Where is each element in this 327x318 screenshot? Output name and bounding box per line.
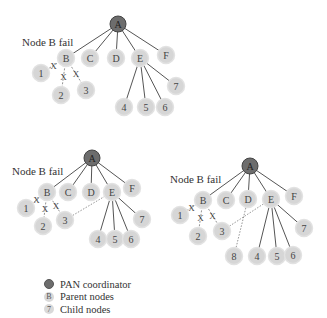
node-label: E: [268, 194, 274, 205]
node-2: 2: [53, 87, 70, 104]
node-label: 4: [255, 251, 260, 262]
node-label: 2: [41, 221, 46, 232]
node-label: B: [63, 53, 70, 64]
link-failure-x-icon: X: [188, 203, 195, 213]
node-label: 8: [232, 251, 237, 262]
node-label: 3: [84, 85, 89, 96]
node-label: C: [87, 53, 94, 64]
node-5: 5: [269, 248, 286, 265]
node-label: 2: [196, 231, 201, 242]
node-label: C: [65, 187, 72, 198]
node-B: B: [39, 184, 56, 201]
node-label: 4: [96, 234, 101, 245]
node-label: B: [44, 187, 51, 198]
node-3: 3: [57, 212, 74, 229]
coordinator-node-A: A: [84, 150, 100, 166]
coordinator-node-A: A: [242, 158, 258, 174]
tree-diagram-3: Node B failXXX12345678ABCDEF: [170, 158, 313, 265]
node-4: 4: [249, 248, 266, 265]
node-C: C: [60, 184, 77, 201]
node-label: 4: [122, 102, 127, 113]
node-label: 3: [63, 215, 68, 226]
node-B: B: [195, 192, 212, 209]
node-E: E: [132, 50, 149, 67]
node-6: 6: [157, 99, 174, 116]
node-label: 6: [163, 102, 168, 113]
node-label: B: [200, 195, 207, 206]
node-label: 6: [291, 250, 296, 261]
node-label: D: [244, 194, 251, 205]
node-label: 2: [59, 90, 64, 101]
legend-label: Child nodes: [60, 304, 110, 315]
node-label: A: [114, 19, 122, 30]
link-failure-x-icon: X: [209, 211, 216, 221]
legend-item-parent-nodes: B Parent nodes: [44, 291, 131, 304]
legend-item-pan-coordinator: PAN coordinator: [44, 278, 131, 291]
node-label: A: [246, 161, 254, 172]
link-failure-x-icon: X: [42, 204, 49, 214]
node-4: 4: [116, 99, 133, 116]
node-label: 6: [129, 234, 134, 245]
node-1: 1: [33, 65, 50, 82]
network-diagram-canvas: Node B failXXX1234567ABCDEFNode B failXX…: [0, 0, 327, 318]
link-failure-x-icon: X: [73, 69, 80, 79]
node-B: B: [58, 50, 75, 67]
node-D: D: [240, 191, 257, 208]
node-7: 7: [296, 220, 313, 237]
node-label: 1: [178, 210, 183, 221]
node-label: A: [88, 153, 96, 164]
link-failure-x-icon: X: [50, 61, 57, 71]
node-D: D: [83, 184, 100, 201]
node-3: 3: [214, 223, 231, 240]
link-failure-x-icon: X: [53, 201, 60, 211]
node-label: F: [129, 183, 135, 194]
coordinator-node-A: A: [110, 16, 126, 32]
node-7: 7: [134, 211, 151, 228]
node-6: 6: [123, 231, 140, 248]
tree-diagram-2: Node B failXXX1234567ABCDEF: [12, 150, 151, 248]
node-7: 7: [168, 78, 185, 95]
node-label: D: [87, 187, 94, 198]
parent-node-icon: B: [44, 292, 54, 302]
node-E: E: [263, 191, 280, 208]
node-E: E: [104, 184, 121, 201]
node-label: 7: [174, 81, 179, 92]
diagram-caption: Node B fail: [12, 165, 63, 177]
coordinator-node-icon: [44, 279, 54, 289]
node-8: 8: [226, 248, 243, 265]
node-4: 4: [90, 231, 107, 248]
legend-label: Parent nodes: [60, 291, 114, 302]
node-5: 5: [138, 99, 155, 116]
node-1: 1: [172, 207, 189, 224]
node-C: C: [218, 192, 235, 209]
node-label: 1: [24, 203, 29, 214]
node-F: F: [124, 180, 141, 197]
legend-label: PAN coordinator: [60, 279, 131, 290]
node-D: D: [108, 50, 125, 67]
node-1: 1: [18, 200, 35, 217]
node-2: 2: [35, 218, 52, 235]
node-label: C: [223, 195, 230, 206]
child-node-icon: 7: [44, 304, 54, 314]
node-C: C: [82, 50, 99, 67]
node-F: F: [158, 47, 175, 64]
node-label: 1: [39, 68, 44, 79]
node-label: 3: [220, 226, 225, 237]
node-label: F: [291, 191, 297, 202]
node-label: 5: [144, 102, 149, 113]
diagram-caption: Node B fail: [170, 173, 221, 185]
node-2: 2: [190, 228, 207, 245]
node-label: 5: [275, 251, 280, 262]
node-label: F: [163, 50, 169, 61]
diagram-caption: Node B fail: [22, 36, 73, 48]
node-label: 5: [113, 234, 118, 245]
node-5: 5: [107, 231, 124, 248]
link-failure-x-icon: X: [60, 72, 67, 82]
node-label: 7: [302, 223, 307, 234]
node-6: 6: [285, 247, 302, 264]
tree-diagram-1: Node B failXXX1234567ABCDEF: [22, 16, 185, 116]
node-F: F: [286, 188, 303, 205]
node-3: 3: [78, 82, 95, 99]
link-failure-x-icon: X: [197, 213, 204, 223]
node-label: E: [109, 187, 115, 198]
